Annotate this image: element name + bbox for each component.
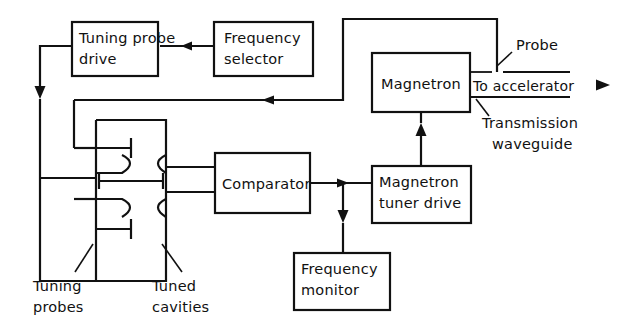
block-label-tuning-probe-drive-line2: drive [79, 51, 117, 67]
schematic-svg: Tuning probe drive Frequency selector Ma… [0, 0, 631, 324]
block-diagram-canvas: Tuning probe drive Frequency selector Ma… [0, 0, 631, 324]
block-label-frequency-selector-line2: selector [224, 51, 284, 67]
block-label-comparator: Comparator [222, 176, 311, 192]
annotation-transmission-waveguide-line2: waveguide [492, 136, 573, 152]
block-label-frequency-monitor-line1: Frequency [301, 261, 378, 277]
annotation-tuning-probes-line2: probes [33, 299, 84, 315]
leader-probe [497, 52, 512, 66]
block-label-magnetron-tuner-drive-line2: tuner drive [379, 195, 461, 211]
annotation-tuned-cavities-line1: Tuned [151, 278, 196, 294]
block-label-magnetron-tuner-drive-line1: Magnetron [379, 174, 459, 190]
block-label-tuning-probe-drive-line1: Tuning probe [78, 30, 175, 46]
wire-comparator-outputs [310, 179, 372, 254]
tuned-cavities-assembly [74, 120, 166, 281]
wire-tuner-drive-to-magnetron [416, 112, 427, 166]
block-label-frequency-selector-line1: Frequency [224, 30, 301, 46]
annotation-transmission-waveguide-line1: Transmission [481, 115, 578, 131]
leader-tuning-probes [75, 244, 93, 272]
annotation-probe: Probe [516, 37, 558, 53]
wire-probe-drive-output [35, 46, 97, 281]
annotation-tuning-probes-line1: Tuning [32, 278, 82, 294]
waveguide-label-to-accelerator: To accelerator [472, 78, 574, 94]
leader-transmission-waveguide [476, 99, 489, 116]
block-label-magnetron: Magnetron [381, 76, 461, 92]
annotation-tuned-cavities-line2: cavities [152, 299, 209, 315]
block-label-frequency-monitor-line2: monitor [301, 282, 359, 298]
